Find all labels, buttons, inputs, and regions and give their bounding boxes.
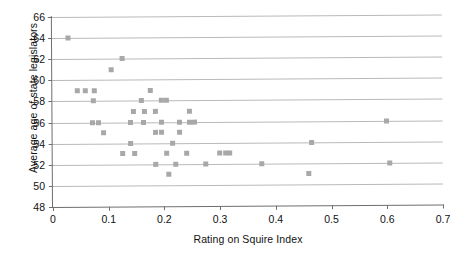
data-point (90, 99, 95, 104)
data-point (133, 151, 138, 156)
y-tick-label: 58 (33, 95, 45, 107)
gridline (52, 36, 442, 39)
data-point (92, 88, 97, 93)
y-tick-label: 62 (33, 53, 45, 65)
data-point (186, 119, 191, 124)
data-point (96, 120, 101, 125)
x-tick (332, 205, 333, 209)
gridline (53, 162, 443, 165)
data-point (90, 120, 95, 125)
gridline (53, 183, 443, 186)
y-tick-label: 54 (33, 138, 45, 150)
y-tick-label: 64 (33, 32, 45, 44)
data-point (387, 160, 392, 165)
plot-area (52, 15, 443, 207)
y-tick (48, 123, 52, 124)
data-point (177, 130, 182, 135)
data-point (65, 36, 70, 41)
x-tick (276, 206, 277, 210)
data-point (128, 120, 133, 125)
y-tick-label: 50 (33, 180, 45, 192)
gridline (52, 15, 442, 18)
x-axis-line (52, 205, 444, 208)
data-point (120, 151, 125, 156)
x-tick-label: 0.1 (101, 213, 116, 225)
data-point (217, 151, 222, 156)
data-point (170, 140, 175, 145)
x-tick-label: 0 (50, 213, 56, 225)
data-point (139, 98, 144, 103)
y-tick (48, 59, 52, 60)
data-point (309, 140, 314, 145)
data-point (159, 119, 164, 124)
data-point (184, 151, 189, 156)
y-tick-label: 48 (33, 201, 45, 213)
x-tick (443, 205, 444, 209)
data-point (153, 109, 158, 114)
y-axis-line (51, 16, 53, 208)
data-point (141, 119, 146, 124)
data-point (159, 130, 164, 135)
data-point (186, 109, 191, 114)
chart-ink-layer (0, 0, 468, 261)
gridline (52, 78, 442, 81)
y-tick (48, 38, 52, 39)
x-tick (220, 206, 221, 210)
data-point (101, 130, 106, 135)
y-tick (48, 17, 52, 18)
data-point (83, 88, 88, 93)
x-tick (109, 207, 110, 211)
data-point (192, 119, 197, 124)
data-point (173, 162, 178, 167)
y-tick-label: 66 (33, 11, 45, 23)
data-point (164, 151, 169, 156)
x-tick-label: 0.6 (380, 213, 395, 225)
x-tick-label: 0.7 (436, 213, 451, 225)
gridlines (52, 15, 442, 17)
data-point (119, 56, 124, 61)
data-point (307, 171, 312, 176)
gridline (52, 99, 442, 102)
gridline (53, 141, 443, 144)
y-tick (49, 186, 53, 187)
data-point (153, 130, 158, 135)
y-tick (49, 165, 53, 166)
gridline (52, 57, 442, 60)
data-point (203, 161, 208, 166)
data-point (128, 141, 133, 146)
data-point (164, 98, 169, 103)
data-point (108, 67, 113, 72)
x-tick-label: 0.2 (157, 213, 172, 225)
data-point (131, 109, 136, 114)
x-tick (164, 206, 165, 210)
x-tick-label: 0.4 (269, 213, 284, 225)
data-point (75, 88, 80, 93)
x-tick (387, 205, 388, 209)
x-tick-label: 0.3 (213, 213, 228, 225)
y-tick (48, 101, 52, 102)
x-tick (53, 207, 54, 211)
y-tick-label: 60 (33, 74, 45, 86)
data-point (153, 162, 158, 167)
y-tick (48, 80, 52, 81)
x-tick-label: 0.5 (324, 213, 339, 225)
y-tick (49, 144, 53, 145)
y-tick-label: 52 (33, 159, 45, 171)
scatter-plot-figure: Average age of state legislators Rating … (0, 0, 468, 261)
y-tick-label: 56 (33, 117, 45, 129)
data-point (384, 118, 389, 123)
data-point (147, 88, 152, 93)
data-point (259, 161, 264, 166)
data-point (177, 119, 182, 124)
data-point (158, 98, 163, 103)
data-point (166, 172, 171, 177)
data-point (142, 109, 147, 114)
data-point (227, 151, 232, 156)
